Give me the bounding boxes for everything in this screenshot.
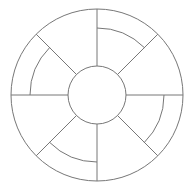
- segment-7-band-arc: [144, 95, 164, 142]
- divider-line-225deg: [36, 116, 76, 156]
- divider-line-315deg: [118, 116, 158, 156]
- segmented-wheel-diagram: [0, 0, 193, 191]
- segment-1-band-arc: [97, 28, 144, 48]
- divider-lines: [11, 9, 183, 181]
- divider-line-135deg: [36, 34, 76, 74]
- divider-line-45deg: [118, 34, 158, 74]
- center-hub: [68, 66, 126, 124]
- segment-5-band-arc: [50, 142, 97, 162]
- segment-3-band-arc: [30, 48, 50, 95]
